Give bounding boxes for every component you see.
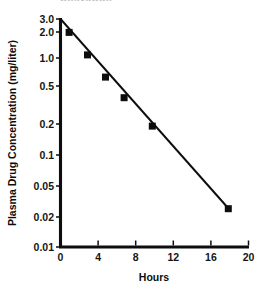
y-tick-label: 0.2 [39,118,54,130]
x-tick-label: 12 [167,251,179,263]
x-tick-label: 20 [243,251,255,263]
data-point-marker [102,74,109,81]
regression-line [61,20,229,209]
y-tick-label: 0.02 [34,211,55,223]
y-tick-label: 0.05 [34,180,55,192]
x-tick-label: 4 [95,251,101,263]
y-tick-label: 1.0 [39,52,54,64]
x-axis-tick-labels: 0 4 8 12 16 20 [58,251,255,263]
x-axis-title: Hours [139,271,169,283]
data-point-marker [149,123,156,130]
data-point-marker [121,94,128,101]
chart-canvas: 3.0 2.0 1.0 0.5 0.2 0.1 0.05 0.02 0.01 [0,0,271,291]
y-tick-label: 0.5 [39,80,54,92]
y-axis-tick-labels: 3.0 2.0 1.0 0.5 0.2 0.1 0.05 0.02 0.01 [34,13,55,253]
x-axis-ticks [61,241,249,246]
data-point-marker [66,29,73,36]
y-tick-label: 2.0 [39,26,54,38]
semilog-plot-figure: pearance 3.0 2.0 1.0 0.5 0.2 0.1 0.05 0.… [0,0,271,291]
x-tick-label: 8 [133,251,139,263]
y-tick-label: 0.1 [39,149,54,161]
x-tick-label: 0 [58,251,64,263]
y-tick-label: 3.0 [39,13,54,25]
data-point-marker [225,205,232,212]
cropped-caption-text: pearance [60,0,112,1]
data-point-marker [84,51,91,58]
y-tick-label: 0.01 [34,241,55,253]
x-tick-label: 16 [205,251,217,263]
y-axis-title: Plasma Drug Concentration (mg/liter) [6,40,18,226]
